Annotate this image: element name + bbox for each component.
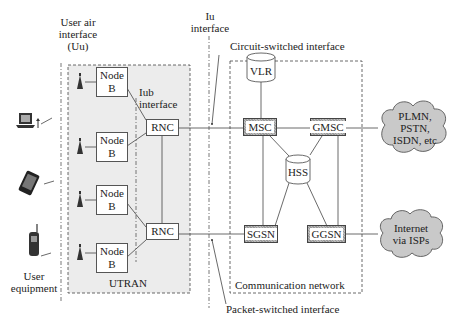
iub-interface-label: Iub interface [139, 86, 177, 110]
node-b-box: Node B [96, 185, 128, 215]
hss-label: HSS [286, 166, 310, 178]
sgsn-box: SGSN [244, 225, 278, 243]
node-b-box: Node B [96, 132, 128, 162]
rnc-box: RNC [146, 119, 179, 136]
circuit-switched-label: Circuit-switched interface [230, 40, 345, 52]
rnc-box: RNC [146, 223, 179, 240]
vlr-label: VLR [247, 65, 275, 77]
pstn-cloud-label: PLMN, PSTN, ISDN, etc [389, 110, 441, 146]
packet-switched-label: Packet-switched interface [226, 303, 339, 315]
uu-interface-label: User air interface (Uu) [48, 16, 108, 52]
gmsc-box: GMSC [310, 118, 346, 136]
utran-label: UTRAN [108, 277, 148, 289]
iu-interface-label: Iu interface [185, 10, 235, 34]
node-b-box: Node B [96, 243, 128, 273]
smartphone-icon [18, 170, 40, 196]
msc-box: MSC [243, 118, 277, 136]
ggsn-box: GGSN [307, 225, 346, 243]
communication-network-label: Communication network [235, 279, 345, 291]
node-b-box: Node B [96, 67, 128, 97]
mobile-phone-icon [29, 224, 39, 256]
internet-cloud-label: Internet via ISPs [385, 222, 437, 246]
user-equipment-label: User equipment [8, 270, 60, 294]
laptop-icon [16, 113, 40, 128]
